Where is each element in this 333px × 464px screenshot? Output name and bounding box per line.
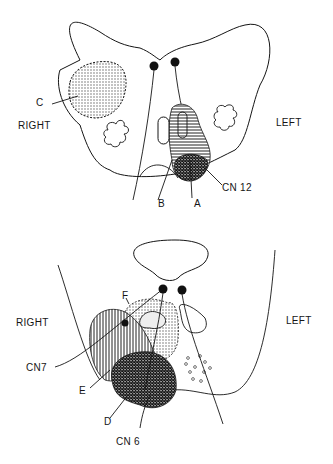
pyramid-left-dot bbox=[171, 58, 180, 67]
label-d: D bbox=[104, 416, 112, 427]
label-b: B bbox=[158, 198, 165, 209]
label-left-top: LEFT bbox=[276, 117, 302, 128]
region-c bbox=[69, 62, 126, 118]
olive-nucleus-right bbox=[104, 120, 129, 146]
olive-nucleus-left bbox=[214, 105, 237, 130]
pyramid-right-dot bbox=[150, 62, 159, 71]
facial-nucleus-dot bbox=[122, 320, 129, 327]
label-left-bottom: LEFT bbox=[286, 315, 312, 326]
label-cn7: CN7 bbox=[26, 362, 47, 373]
label-c: C bbox=[36, 97, 44, 108]
label-right-bottom: RIGHT bbox=[16, 317, 49, 328]
brainstem-diagram bbox=[0, 0, 333, 464]
label-e: E bbox=[79, 385, 86, 396]
olive-oval-right bbox=[158, 117, 169, 144]
label-a: A bbox=[194, 198, 201, 209]
fourth-ventricle bbox=[134, 240, 208, 281]
tract-left bbox=[179, 304, 206, 332]
label-f: F bbox=[122, 290, 128, 301]
abducens-dot-left bbox=[178, 286, 187, 295]
label-right-top: RIGHT bbox=[18, 120, 51, 131]
region-d bbox=[112, 352, 177, 408]
label-cn6: CN 6 bbox=[116, 436, 140, 447]
label-cn12: CN 12 bbox=[222, 182, 252, 193]
